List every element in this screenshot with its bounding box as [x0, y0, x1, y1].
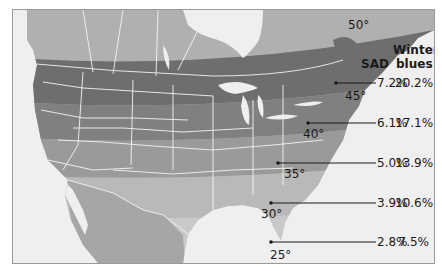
winter-blues-header-line1: Winter	[393, 43, 435, 57]
latitude-25-label: 25°	[270, 248, 291, 262]
winter-blues-value: 17.1%	[395, 116, 429, 130]
latitude-40-label: 40°	[303, 127, 324, 141]
winter-blues-value: 13.9%	[395, 156, 429, 170]
north-america-map	[13, 10, 434, 263]
sad-column-header: SAD	[361, 57, 389, 71]
map-frame: 50° 45° 40° 35° 30° 25° SAD Winter blues…	[12, 9, 435, 264]
latitude-45-label: 45°	[345, 89, 366, 103]
latitude-30-label: 30°	[261, 207, 282, 221]
winter-blues-value: 10.6%	[395, 196, 429, 210]
winter-blues-header-line2: blues	[396, 57, 433, 71]
winter-blues-value: 7.5%	[395, 235, 429, 249]
latitude-35-label: 35°	[284, 167, 305, 181]
winter-blues-value: 20.2%	[395, 76, 429, 90]
latitude-50-label: 50°	[348, 18, 369, 32]
